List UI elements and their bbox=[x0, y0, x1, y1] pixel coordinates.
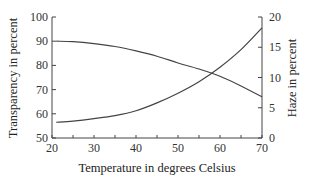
y-right-tick-label: 0 bbox=[269, 131, 275, 145]
y-right-tick-label: 15 bbox=[269, 40, 281, 54]
x-axis-label: Temperature in degrees Celsius bbox=[78, 161, 235, 175]
y-tick-label: 90 bbox=[36, 34, 48, 48]
y-right-tick-label: 5 bbox=[269, 101, 275, 115]
x-tick-label: 70 bbox=[256, 141, 268, 155]
plot-area bbox=[56, 28, 262, 122]
chart: 203040506070506070809010005101520 Temper… bbox=[0, 0, 310, 179]
series-transparency bbox=[56, 41, 262, 97]
y-tick-label: 70 bbox=[36, 83, 48, 97]
y-axis-label: Transparency in percent bbox=[6, 17, 20, 138]
y-tick-label: 50 bbox=[36, 131, 48, 145]
x-tick-label: 40 bbox=[130, 141, 142, 155]
x-tick-label: 50 bbox=[172, 141, 184, 155]
y-tick-label: 60 bbox=[36, 107, 48, 121]
y-axis-right-label: Haze in percent bbox=[285, 38, 299, 117]
series-haze bbox=[56, 28, 262, 122]
x-tick-label: 30 bbox=[88, 141, 100, 155]
y-tick-label: 80 bbox=[36, 58, 48, 72]
y-right-tick-label: 20 bbox=[269, 10, 281, 24]
x-tick-label: 60 bbox=[214, 141, 226, 155]
axes: 203040506070506070809010005101520 bbox=[30, 10, 281, 155]
y-right-tick-label: 10 bbox=[269, 71, 281, 85]
y-tick-label: 100 bbox=[30, 10, 48, 24]
